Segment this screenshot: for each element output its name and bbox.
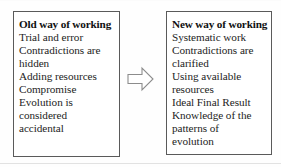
- new-way-box: New way of working Systematic work Contr…: [166, 11, 272, 155]
- old-way-heading: Old way of working: [19, 18, 119, 31]
- new-way-item-3: Using available: [172, 70, 271, 83]
- old-way-item-5: Evolution is: [19, 96, 119, 109]
- arrow-right-outline-icon: [127, 66, 154, 92]
- new-way-item-7: patterns of: [172, 122, 271, 135]
- diagram-canvas: Old way of working Trial and error Contr…: [0, 0, 281, 167]
- scan-artifact-bottom: [0, 163, 281, 164]
- new-way-item-6: Knowledge of the: [172, 109, 271, 122]
- old-way-item-6: considered: [19, 109, 119, 122]
- new-way-item-1: Contradictions are: [172, 44, 271, 57]
- new-way-item-0: Systematic work: [172, 31, 271, 44]
- old-way-item-2: hidden: [19, 57, 119, 70]
- new-way-item-8: evolution: [172, 135, 271, 148]
- new-way-heading: New way of working: [172, 18, 271, 31]
- old-way-item-3: Adding resources: [19, 70, 119, 83]
- old-way-item-7: accidental: [19, 122, 119, 135]
- new-way-box-content: New way of working Systematic work Contr…: [167, 12, 271, 148]
- old-way-box: Old way of working Trial and error Contr…: [13, 11, 120, 157]
- old-way-item-4: Compromise: [19, 83, 119, 96]
- old-way-box-content: Old way of working Trial and error Contr…: [14, 12, 119, 135]
- new-way-item-2: clarified: [172, 57, 271, 70]
- new-way-item-4: resources: [172, 83, 271, 96]
- old-way-item-1: Contradictions are: [19, 44, 119, 57]
- new-way-item-5: Ideal Final Result: [172, 96, 271, 109]
- old-way-item-0: Trial and error: [19, 31, 119, 44]
- scan-artifact-top: [0, 0, 281, 1]
